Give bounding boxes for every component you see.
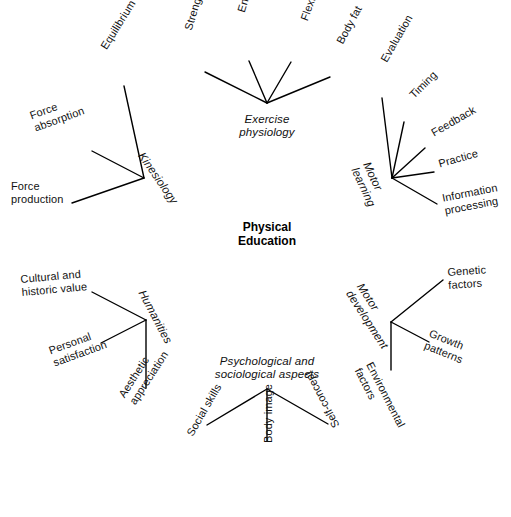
edge-kinesiology-2	[72, 178, 144, 203]
edge-exercise-physiology-0	[205, 72, 267, 103]
edge-humanities-1	[101, 320, 146, 343]
edge-motor-learning-4	[392, 178, 437, 204]
leaf-label-psychological-sociological-1: Body image	[262, 384, 275, 443]
edge-kinesiology-1	[92, 151, 144, 178]
edge-exercise-physiology-3	[267, 77, 330, 103]
hub-label-exercise-physiology: Exercise physiology	[239, 113, 294, 139]
edge-motor-development-0	[391, 280, 443, 322]
leaf-label-motor-development-0: Genetic factors	[447, 263, 487, 291]
concept-map-diagram: KinesiologyEquilibriumForce absorptionFo…	[0, 0, 511, 517]
edge-motor-learning-0	[382, 98, 392, 178]
leaf-label-kinesiology-2: Force production	[11, 180, 63, 205]
edge-exercise-physiology-2	[267, 62, 291, 103]
page-title: Physical Education	[207, 220, 327, 248]
edge-exercise-physiology-1	[249, 61, 267, 103]
